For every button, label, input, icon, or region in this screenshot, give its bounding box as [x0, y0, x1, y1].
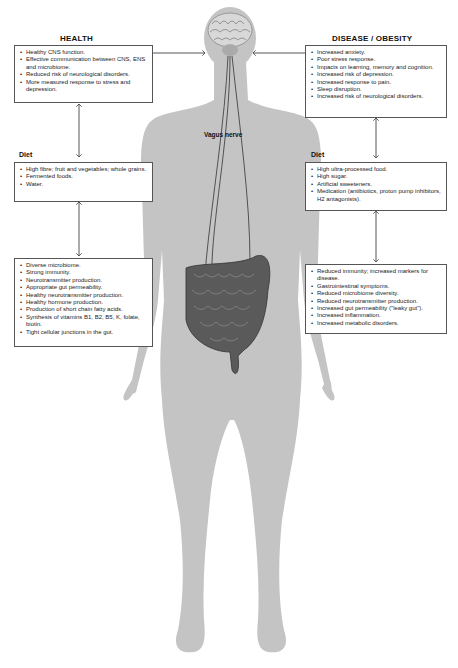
disease-heading: DISEASE / OBESITY	[332, 34, 412, 43]
health-diet-item: Water.	[19, 181, 148, 188]
health-gut-item: Tight cellular junctions in the gut.	[19, 329, 148, 336]
disease-gut-item: Increased metabolic disorders.	[310, 320, 442, 327]
disease-outcomes-box: Increased anxiety. Poor stress response.…	[305, 45, 447, 118]
health-gut-box: Diverse microbiome. Strong immunity. Neu…	[14, 258, 153, 347]
health-diet-item: High fibre; fruit and vegetables; whole …	[19, 166, 148, 173]
disease-diet-item: Medication (antibiotics, proton pump inh…	[310, 188, 442, 203]
disease-gut-item: Reduced microbiome diversity.	[310, 290, 442, 297]
disease-gut-item: Reduced neurotransmitter production.	[310, 298, 442, 305]
health-outcome-item: Effective communication between CNS, ENS…	[19, 56, 148, 71]
health-outcome-item: More measured response to stress and dep…	[19, 79, 148, 94]
disease-outcome-item: Increased risk of neurological disorders…	[310, 93, 442, 100]
disease-outcome-item: Poor stress response.	[310, 56, 442, 63]
disease-outcome-item: Increased risk of depression.	[310, 71, 442, 78]
disease-diet-item: High ultra-processed food.	[310, 166, 442, 173]
health-diet-box: High fibre; fruit and vegetables; whole …	[14, 162, 153, 202]
health-outcomes-box: Healthy CNS function. Effective communic…	[14, 45, 153, 103]
health-gut-item: Strong immunity.	[19, 269, 148, 276]
disease-outcome-item: Increased response to pain.	[310, 79, 442, 86]
disease-diet-box: High ultra-processed food. High sugar. A…	[305, 162, 447, 211]
health-gut-item: Healthy hormone production.	[19, 299, 148, 306]
disease-gut-item: Reduced immunity; increased markers for …	[310, 268, 442, 283]
health-heading: HEALTH	[60, 34, 93, 43]
vagus-nerve-label: Vagus nerve	[204, 131, 242, 138]
health-gut-item: Healthy neurotransmitter production.	[19, 292, 148, 299]
health-diet-label: Diet	[19, 151, 32, 158]
health-gut-item: Synthesis of vitamins B1, B2, B5, K, fol…	[19, 314, 148, 329]
disease-outcome-item: Impacts on learning, memory and cognitio…	[310, 64, 442, 71]
disease-gut-item: Increased gut permeability ("leaky gut")…	[310, 305, 442, 312]
disease-diet-label: Diet	[311, 151, 324, 158]
disease-outcome-item: Increased anxiety.	[310, 49, 442, 56]
health-outcome-item: Healthy CNS function.	[19, 49, 148, 56]
disease-diet-item: Artificial sweeteners.	[310, 181, 442, 188]
health-diet-item: Fermented foods.	[19, 173, 148, 180]
disease-gut-item: Gastrointestinal symptoms.	[310, 283, 442, 290]
health-outcome-item: Reduced risk of neurological disorders.	[19, 71, 148, 78]
disease-gut-item: Increased inflammation.	[310, 312, 442, 319]
disease-outcome-item: Sleep disruption.	[310, 86, 442, 93]
health-gut-item: Production of short chain fatty acids.	[19, 306, 148, 313]
health-gut-item: Diverse microbiome.	[19, 262, 148, 269]
disease-gut-box: Reduced immunity; increased markers for …	[305, 264, 447, 334]
health-gut-item: Neurotransmitter production.	[19, 277, 148, 284]
disease-diet-item: High sugar.	[310, 173, 442, 180]
health-gut-item: Appropriate gut permeability.	[19, 284, 148, 291]
